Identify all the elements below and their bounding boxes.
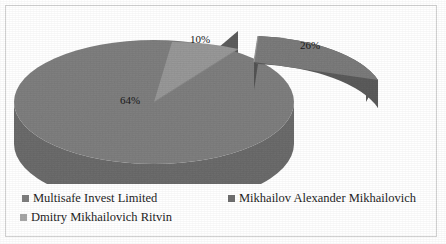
pie-data-label-dmitry-mikhailovich-ritvin: 10% (190, 34, 210, 45)
legend-row: Dmitry Mikhailovich Ritvin (6, 208, 436, 227)
chart-frame: 10% 26% 64% Multisafe Invest Limited Mik… (5, 5, 437, 237)
legend-item-label: Multisafe Invest Limited (33, 192, 157, 205)
legend-item-mikhailov-alexander-mikhailovich[interactable]: Mikhailov Alexander Mikhailovich (228, 189, 416, 208)
pie-data-label-multisafe-invest-limited: 64% (120, 95, 140, 106)
pie-chart-graphic (6, 6, 436, 184)
pie-slice-64-top (14, 31, 294, 164)
pie-chart-plot-area: 10% 26% 64% (6, 6, 436, 184)
legend-swatch-icon (20, 214, 27, 221)
legend-item-label: Dmitry Mikhailovich Ritvin (31, 211, 172, 224)
chart-legend: Multisafe Invest Limited Mikhailov Alexa… (6, 189, 436, 236)
legend-item-multisafe-invest-limited[interactable]: Multisafe Invest Limited (22, 189, 157, 208)
pie-data-label-mikhailov-alexander-mikhailovich: 26% (300, 40, 320, 51)
legend-swatch-icon (22, 195, 29, 202)
legend-item-label: Mikhailov Alexander Mikhailovich (239, 192, 416, 205)
legend-swatch-icon (228, 195, 235, 202)
legend-item-dmitry-mikhailovich-ritvin[interactable]: Dmitry Mikhailovich Ritvin (20, 208, 172, 227)
legend-row: Multisafe Invest Limited Mikhailov Alexa… (6, 189, 436, 208)
